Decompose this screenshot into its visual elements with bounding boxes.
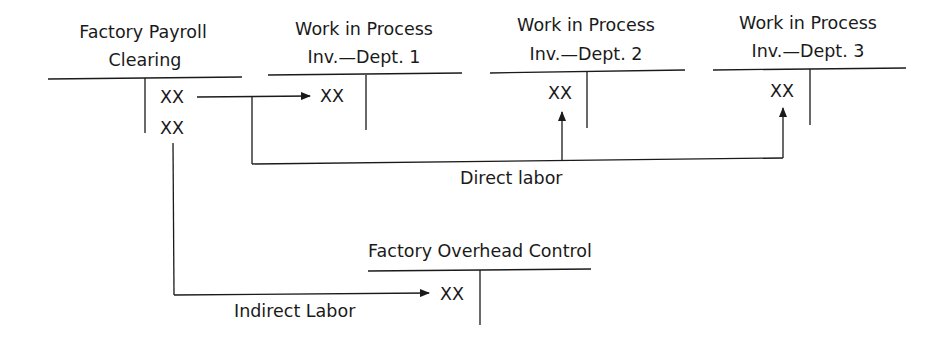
account-title: Inv.—Dept. 2 [530, 43, 643, 65]
flow-label-direct-labor: Direct labor [460, 167, 563, 189]
account-title: Clearing [109, 49, 182, 71]
account-title: Inv.—Dept. 3 [752, 40, 865, 62]
flow-label-indirect-labor: Indirect Labor [234, 300, 355, 322]
debit-entry: XX [770, 80, 794, 102]
credit-entry: XX [160, 117, 184, 139]
credit-entry: XX [160, 86, 184, 108]
account-title: Work in Process [517, 14, 655, 36]
debit-entry: XX [440, 283, 464, 305]
account-title: Factory Overhead Control [368, 240, 592, 262]
debit-entry: XX [320, 85, 344, 107]
account-title: Inv.—Dept. 1 [308, 46, 421, 68]
account-title: Work in Process [295, 18, 433, 40]
account-title: Work in Process [739, 12, 877, 34]
debit-entry: XX [548, 82, 572, 104]
account-title: Factory Payroll [79, 21, 207, 43]
